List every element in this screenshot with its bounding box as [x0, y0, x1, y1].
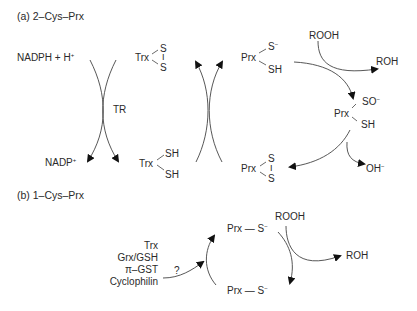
trx-red-label: Trx — [139, 158, 153, 169]
trx-ox-bond-1 — [152, 50, 158, 54]
trx-ox-bond-2 — [152, 60, 158, 64]
trx-red-bond-2 — [157, 165, 164, 170]
hydroxide-text: OH — [366, 163, 381, 174]
prx-thiolate-s-sup: − — [275, 41, 279, 47]
prx-sulfenic-bond-2 — [352, 117, 357, 121]
prx-bottom-sup: − — [264, 285, 268, 291]
prx-bottom-text: Prx — S — [227, 285, 264, 296]
reductant-list: Trx Grx/GSH π–GST Cyclophilin — [100, 240, 158, 288]
reaction-arrows — [0, 0, 417, 311]
prx-disulfide-bond-1 — [260, 162, 266, 166]
prx-sulfenic-bond-1 — [352, 104, 356, 108]
prx-oxidation-arrow — [294, 62, 353, 98]
prx-thiolate-s: S− — [268, 41, 278, 52]
trx-ox-s2: S — [160, 62, 167, 73]
reductant-arrow — [163, 262, 203, 278]
panel-b-title: (b) 1–Cys–Prx — [17, 190, 84, 201]
panel-a-title: (a) 2–Cys–Prx — [17, 11, 84, 22]
rooh-roh-arrow — [318, 41, 377, 71]
prx-top-text: Prx — S — [227, 223, 264, 234]
nadph-sup: + — [71, 52, 75, 58]
prx-thiolate-bond-1 — [259, 49, 266, 53]
prx-thiolate-sh: SH — [268, 64, 282, 75]
nadp-sup: + — [73, 157, 77, 163]
prx-sulfenic-sh: SH — [361, 119, 375, 130]
prx-thiolate-label: Prx — [241, 52, 256, 63]
prx-sulfenic-so-text: SO — [362, 96, 376, 107]
rooh-label: ROOH — [309, 30, 339, 41]
enzyme-tr-label: TR — [113, 104, 126, 115]
prx-disulfide-s2: S — [268, 173, 275, 184]
tr-arc-left — [88, 60, 103, 161]
reductant-pi-gst: π–GST — [100, 264, 158, 276]
roh-label-b: ROH — [346, 250, 368, 261]
prx-thiolate-bond-2 — [259, 61, 266, 65]
unknown-mechanism-label: ? — [174, 265, 180, 276]
prx-disulfide-bond-2 — [260, 172, 266, 176]
nadph-label: NADPH + H+ — [17, 52, 74, 63]
nadp-text: NADP — [45, 157, 73, 168]
prx-bottom-label: Prx — S− — [227, 285, 268, 296]
hydroxide-sup: − — [381, 163, 385, 169]
hydroxide-arrow — [347, 142, 364, 164]
reductant-trx: Trx — [100, 240, 158, 252]
disulfide-formation-arrow — [290, 130, 350, 167]
prx-sulfenic-label: Prx — [334, 108, 349, 119]
reductant-cyclophilin: Cyclophilin — [100, 276, 158, 288]
hydroxide-label: OH− — [366, 163, 385, 174]
trx-prx-arc-right — [209, 62, 222, 162]
reductant-grx-gsh: Grx/GSH — [100, 252, 158, 264]
prx-top-sup: − — [264, 223, 268, 229]
trx-red-sh2: SH — [165, 169, 179, 180]
prx-sulfenic-so-sup: − — [376, 96, 380, 102]
prx-disulfide-label: Prx — [241, 163, 256, 174]
trx-red-bond-1 — [157, 155, 164, 160]
prx-oxidation-arrow-b — [278, 232, 292, 283]
rooh-roh-arrow-b — [286, 226, 340, 261]
nadph-text: NADPH + H — [17, 52, 71, 63]
regeneration-arrow — [206, 236, 216, 285]
nadp-label: NADP+ — [45, 157, 76, 168]
roh-label: ROH — [376, 56, 398, 67]
trx-prx-arc-left — [196, 62, 208, 162]
trx-ox-label: Trx — [135, 52, 149, 63]
trx-red-sh1: SH — [165, 148, 179, 159]
prx-top-label: Prx — S− — [227, 223, 268, 234]
prx-thiolate-s-text: S — [268, 41, 275, 52]
prx-sulfenic-so: SO− — [362, 96, 380, 107]
rooh-label-b: ROOH — [275, 211, 305, 222]
